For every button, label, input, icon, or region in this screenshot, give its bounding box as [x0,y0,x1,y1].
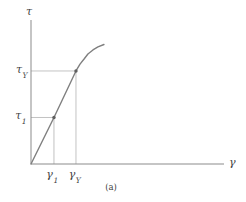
x-axis-label: γ [229,157,236,171]
gamma-1-label: γ1 [44,169,60,183]
tau-Y-label: τY [6,64,27,78]
y-axis-label: τ [23,6,35,20]
figure-caption: (a) [99,183,123,192]
stress-strain-figure: τ γ τY τ1 γ1 γY (a) [0,0,246,202]
tau-1-label: τ1 [6,110,26,124]
curve-svg [0,0,246,202]
gamma-Y-label: γY [66,169,83,183]
